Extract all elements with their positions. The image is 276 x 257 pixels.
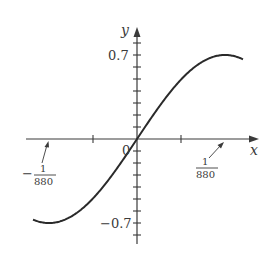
svg-text:880: 880 (196, 169, 215, 180)
y-axis-arrow-icon (134, 27, 141, 37)
left-zero-pointer (42, 141, 49, 163)
right-zero-label: 1 880 (196, 156, 218, 180)
y-min-label: −0.7 (100, 216, 132, 231)
left-zero-label: − 1 880 (22, 163, 56, 187)
sine-wave-chart: y x 0 0.7 −0.7 − 1 880 1 880 (0, 0, 276, 257)
svg-text:1: 1 (202, 156, 208, 167)
right-zero-pointer (209, 142, 224, 158)
svg-text:−: − (22, 166, 33, 181)
svg-text:880: 880 (34, 176, 53, 187)
y-max-label: 0.7 (108, 48, 129, 63)
x-axis-label: x (250, 142, 258, 158)
origin-label: 0 (122, 143, 130, 158)
y-axis-label: y (120, 22, 130, 38)
svg-text:1: 1 (40, 163, 46, 174)
